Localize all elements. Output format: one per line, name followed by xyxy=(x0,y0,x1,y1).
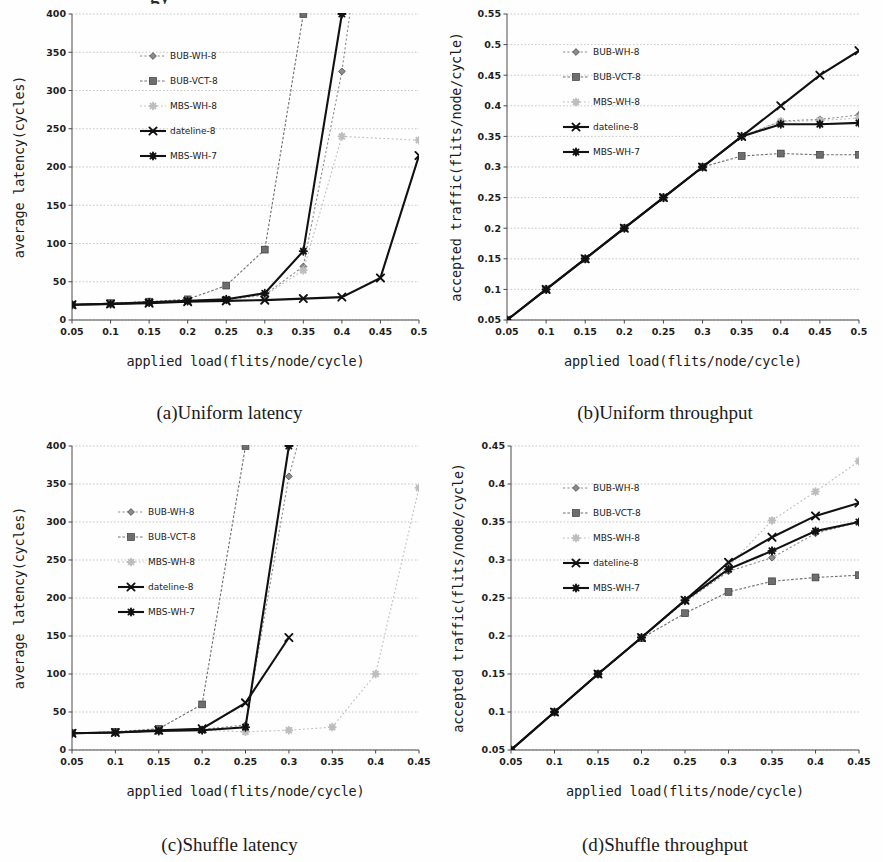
chart-panel-b: 0.050.10.150.20.250.30.350.40.450.50.550… xyxy=(441,0,883,430)
series-MBS-WH-7 xyxy=(503,119,862,323)
svg-text:250: 250 xyxy=(46,123,66,134)
svg-text:0.45: 0.45 xyxy=(369,326,392,337)
svg-text:100: 100 xyxy=(46,238,66,249)
y-axis-tick-labels: 050100150200250300350400 xyxy=(46,8,66,325)
svg-text:0.4: 0.4 xyxy=(772,326,789,337)
x-axis-title: applied load(flits/node/cycle) xyxy=(564,353,802,369)
svg-text:0.2: 0.2 xyxy=(179,326,196,337)
chart-d-svg: 0.050.10.150.20.250.30.350.40.450.050.10… xyxy=(441,430,883,862)
svg-text:0.45: 0.45 xyxy=(407,756,430,767)
gridlines xyxy=(507,14,859,320)
svg-text:0.05: 0.05 xyxy=(482,744,505,755)
chart-d-caption: (d)Shuffle throughput xyxy=(441,834,883,856)
chart-c-caption: (c)Shuffle latency xyxy=(0,834,441,856)
svg-text:0.4: 0.4 xyxy=(333,326,350,337)
chart-a-caption: (a)Uniform latency xyxy=(0,402,441,424)
svg-text:0.1: 0.1 xyxy=(484,284,501,295)
svg-text:0.2: 0.2 xyxy=(633,756,650,767)
svg-text:0.5: 0.5 xyxy=(484,39,501,50)
legend: BUB-WH-8BUB-VCT-8MBS-WH-8dateline-8MBS-W… xyxy=(118,507,196,617)
svg-text:0.35: 0.35 xyxy=(478,131,501,142)
series-dateline-8 xyxy=(68,152,422,308)
y-axis-tick-labels: 0.050.10.150.20.250.30.350.40.45 xyxy=(482,440,506,755)
legend-label-BUB-VCT-8: BUB-VCT-8 xyxy=(148,532,196,542)
svg-text:0.25: 0.25 xyxy=(234,756,257,767)
svg-text:0.25: 0.25 xyxy=(478,192,501,203)
svg-text:150: 150 xyxy=(46,200,66,211)
svg-text:0.25: 0.25 xyxy=(482,592,505,603)
svg-text:0.1: 0.1 xyxy=(107,756,124,767)
chart-b-svg: 0.050.10.150.20.250.30.350.40.450.50.550… xyxy=(441,0,883,430)
svg-text:0.4: 0.4 xyxy=(484,100,501,111)
chart-b-plot: 0.050.10.150.20.250.30.350.40.450.50.550… xyxy=(441,0,883,430)
legend-label-MBS-WH-7: MBS-WH-7 xyxy=(148,607,195,617)
svg-text:0.45: 0.45 xyxy=(847,756,870,767)
series-layer xyxy=(507,458,862,754)
series-BUB-WH-8 xyxy=(504,112,863,324)
x-axis-tick-labels: 0.050.10.150.20.250.30.350.40.45 xyxy=(499,756,870,767)
legend-label-MBS-WH-8: MBS-WH-8 xyxy=(593,97,640,107)
svg-text:0.3: 0.3 xyxy=(256,326,273,337)
series-layer xyxy=(68,442,422,737)
svg-text:350: 350 xyxy=(46,478,66,489)
svg-text:0.05: 0.05 xyxy=(499,756,522,767)
legend-label-MBS-WH-7: MBS-WH-7 xyxy=(593,583,640,593)
svg-text:0.1: 0.1 xyxy=(488,706,505,717)
legend: BUB-WH-8BUB-VCT-8MBS-WH-8dateline-8MBS-W… xyxy=(563,483,641,593)
legend-label-MBS-WH-8: MBS-WH-8 xyxy=(170,101,217,111)
x-axis-tick-labels: 0.050.10.150.20.250.30.350.40.450.5 xyxy=(495,326,867,337)
legend-label-BUB-WH-8: BUB-WH-8 xyxy=(170,51,217,61)
svg-text:0.1: 0.1 xyxy=(102,326,119,337)
chart-c-plot: 0501001502002503003504000.050.10.150.20.… xyxy=(0,430,441,862)
svg-text:0.2: 0.2 xyxy=(488,630,505,641)
svg-text:0.3: 0.3 xyxy=(484,161,501,172)
series-MBS-WH-8 xyxy=(504,115,863,324)
svg-text:0.35: 0.35 xyxy=(730,326,753,337)
y-axis-tick-labels: 050100150200250300350400 xyxy=(46,440,66,755)
legend: BUB-WH-8BUB-VCT-8MBS-WH-8dateline-8MBS-W… xyxy=(140,51,218,161)
svg-text:0.05: 0.05 xyxy=(495,326,518,337)
svg-text:0.3: 0.3 xyxy=(280,756,297,767)
svg-text:0.15: 0.15 xyxy=(478,253,501,264)
svg-text:350: 350 xyxy=(46,47,66,58)
svg-text:0.15: 0.15 xyxy=(573,326,596,337)
svg-text:0.25: 0.25 xyxy=(214,326,237,337)
chart-c-svg: 0501001502002503003504000.050.10.150.20.… xyxy=(0,430,441,862)
svg-text:0.15: 0.15 xyxy=(137,326,160,337)
svg-text:0.35: 0.35 xyxy=(482,516,505,527)
legend-label-dateline-8: dateline-8 xyxy=(593,558,639,568)
svg-text:0.15: 0.15 xyxy=(586,756,609,767)
svg-text:0.4: 0.4 xyxy=(807,756,824,767)
x-axis-title: applied load(flits/node/cycle) xyxy=(127,783,365,799)
axes xyxy=(69,446,420,754)
svg-text:0.25: 0.25 xyxy=(673,756,696,767)
svg-text:0.15: 0.15 xyxy=(147,756,170,767)
svg-text:400: 400 xyxy=(46,8,66,19)
gridlines xyxy=(72,446,419,750)
svg-text:0.35: 0.35 xyxy=(292,326,315,337)
svg-text:0.55: 0.55 xyxy=(478,8,501,19)
svg-text:0.35: 0.35 xyxy=(760,756,783,767)
svg-text:150: 150 xyxy=(46,630,66,641)
svg-text:0.5: 0.5 xyxy=(411,326,428,337)
chart-a-svg: 0501001502002503003504000.050.10.150.20.… xyxy=(0,0,441,430)
svg-text:0.05: 0.05 xyxy=(60,326,83,337)
chart-panel-a: 0501001502002503003504000.050.10.150.20.… xyxy=(0,0,441,430)
svg-text:250: 250 xyxy=(46,554,66,565)
svg-text:0.3: 0.3 xyxy=(720,756,737,767)
svg-text:0.05: 0.05 xyxy=(478,314,501,325)
chart-a-plot: 0501001502002503003504000.050.10.150.20.… xyxy=(0,0,441,430)
svg-text:0.05: 0.05 xyxy=(60,756,83,767)
legend-label-MBS-WH-8: MBS-WH-8 xyxy=(148,557,195,567)
figure-page: gy 0501001502002503003504000.050.10.150.… xyxy=(0,0,883,862)
svg-text:0.1: 0.1 xyxy=(546,756,563,767)
chart-d-plot: 0.050.10.150.20.250.30.350.40.450.050.10… xyxy=(441,430,883,862)
svg-text:0.5: 0.5 xyxy=(851,326,868,337)
series-dateline-8 xyxy=(503,47,862,323)
y-axis-title: average latency(cycles) xyxy=(11,507,27,689)
svg-text:0: 0 xyxy=(59,744,66,755)
y-axis-title: accepted traffic(flits/node/cycle) xyxy=(448,32,464,302)
svg-text:0.45: 0.45 xyxy=(482,440,505,451)
series-layer xyxy=(68,10,422,308)
svg-text:50: 50 xyxy=(53,706,67,717)
